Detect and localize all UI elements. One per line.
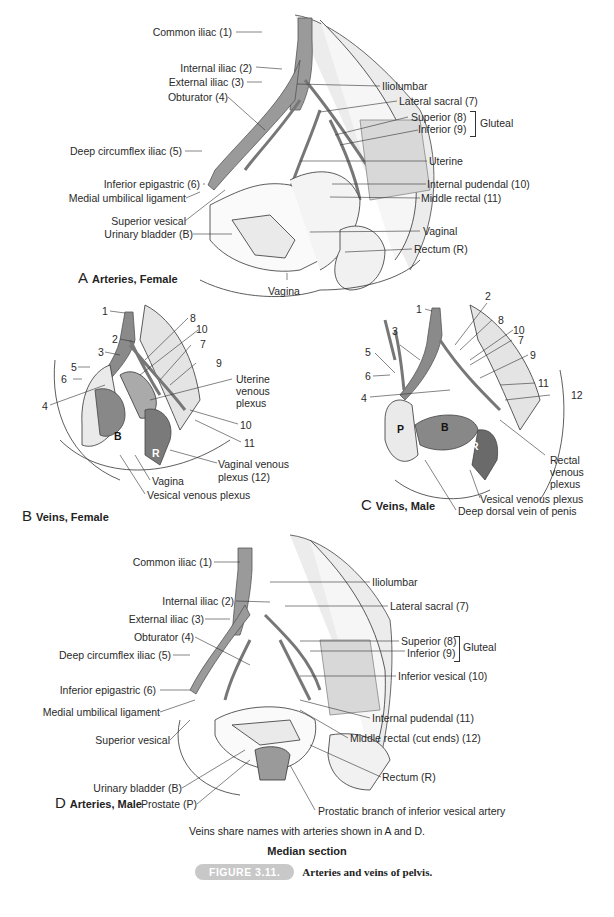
label-b-9: 9 xyxy=(216,357,222,369)
label-iliolumbar: Iliolumbar xyxy=(382,80,428,92)
label-c-11: 11 xyxy=(538,377,549,389)
label-c-10: 10 xyxy=(513,324,525,336)
label-inferior-vesical: Inferior vesical (10) xyxy=(398,670,487,682)
label-gluteal: Gluteal xyxy=(480,117,513,129)
label-uterine: Uterine xyxy=(429,155,463,167)
label-prostatic-branch: Prostatic branch of inferior vesical art… xyxy=(318,805,505,817)
label-c-6: 6 xyxy=(365,370,371,382)
label-internal-pudendal: Internal pudendal (10) xyxy=(427,178,530,190)
pelvis-illustrations xyxy=(0,0,614,917)
label-c-9: 9 xyxy=(530,349,536,361)
label-vaginal-venous-plexus-2: plexus (12) xyxy=(218,471,270,483)
label-rectal-venous-plexus-3: plexus xyxy=(550,478,580,490)
label-deep-circumflex-iliac: Deep circumflex iliac (5) xyxy=(70,145,182,157)
label-b-5: 5 xyxy=(71,361,77,373)
label-obturator: Obturator (4) xyxy=(134,631,194,643)
label-b-8: 8 xyxy=(190,312,196,324)
label-rectum: Rectum (R) xyxy=(414,243,468,255)
label-uterine-venous-plexus-2: venous xyxy=(236,385,270,397)
label-deep-dorsal-vein: Deep dorsal vein of penis xyxy=(458,505,577,517)
bladder-marker: B xyxy=(114,430,122,442)
label-inferior-epigastric: Inferior epigastric (6) xyxy=(60,684,156,696)
label-b-6: 6 xyxy=(61,373,67,385)
label-rectum: Rectum (R) xyxy=(382,771,436,783)
rectum-marker: R xyxy=(152,447,160,459)
label-vagina: Vagina xyxy=(152,475,184,487)
label-deep-circumflex-iliac: Deep circumflex iliac (5) xyxy=(59,649,171,661)
label-c-1: 1 xyxy=(416,303,422,315)
label-b-10-upper: 10 xyxy=(196,323,208,335)
label-inferior-epigastric: Inferior epigastric (6) xyxy=(104,178,200,190)
gluteal-bracket xyxy=(470,111,476,137)
panel-d-title: DArteries, Male xyxy=(55,794,142,811)
label-obturator: Obturator (4) xyxy=(168,91,228,103)
label-b-11: 11 xyxy=(244,437,255,449)
label-gluteal-inferior: Inferior (9) xyxy=(407,647,455,659)
caption-note: Veins share names with arteries shown in… xyxy=(0,825,614,837)
label-urinary-bladder: Urinary bladder (B) xyxy=(104,228,193,240)
caption-subtitle: Median section xyxy=(0,845,614,857)
label-vagina: Vagina xyxy=(268,285,300,297)
label-vesical-venous-plexus: Vesical venous plexus xyxy=(480,493,583,505)
figure-badge: FIGURE 3.11. xyxy=(195,864,294,880)
panel-c-illustration xyxy=(385,305,564,500)
label-middle-rectal: Middle rectal (cut ends) (12) xyxy=(350,732,481,744)
panel-a-illustration xyxy=(200,15,434,297)
panel-d-illustration xyxy=(178,535,392,795)
label-internal-pudendal: Internal pudendal (11) xyxy=(372,712,474,724)
label-b-2: 2 xyxy=(112,333,118,345)
label-medial-umbilical-ligament: Medial umbilical ligament xyxy=(69,192,186,204)
label-internal-iliac: Internal iliac (2) xyxy=(180,62,252,74)
panel-c-title: CVeins, Male xyxy=(361,496,435,513)
label-c-8: 8 xyxy=(498,314,504,326)
label-c-3: 3 xyxy=(392,325,398,337)
label-gluteal-inferior: Inferior (9) xyxy=(418,123,466,135)
label-c-5: 5 xyxy=(365,346,371,358)
label-b-4: 4 xyxy=(42,400,48,412)
prostate-marker: P xyxy=(397,423,404,435)
rectum-marker: R xyxy=(471,440,479,452)
label-medial-umbilical-ligament: Medial umbilical ligament xyxy=(43,706,160,718)
label-b-3: 3 xyxy=(98,346,104,358)
label-c-4: 4 xyxy=(361,392,367,404)
label-b-1: 1 xyxy=(102,305,108,317)
label-vaginal: Vaginal xyxy=(423,225,457,237)
figure-caption: FIGURE 3.11. Arteries and veins of pelvi… xyxy=(195,864,432,880)
label-gluteal: Gluteal xyxy=(463,641,496,653)
label-internal-iliac: Internal iliac (2) xyxy=(162,595,234,607)
label-gluteal-superior: Superior (8) xyxy=(411,111,466,123)
label-iliolumbar: Iliolumbar xyxy=(372,576,418,588)
gluteal-bracket xyxy=(454,636,460,662)
label-urinary-bladder: Urinary bladder (B) xyxy=(93,782,182,794)
label-prostate: Prostate (P) xyxy=(141,798,197,810)
label-uterine-venous-plexus-3: plexus xyxy=(236,397,266,409)
figure-title: Arteries and veins of pelvis. xyxy=(302,866,432,878)
label-rectal-venous-plexus-1: Rectal xyxy=(550,454,580,466)
label-b-7: 7 xyxy=(200,338,206,350)
label-gluteal-superior: Superior (8) xyxy=(401,635,456,647)
panel-b-title: BVeins, Female xyxy=(22,507,109,524)
label-c-2: 2 xyxy=(485,290,491,302)
bladder-marker: B xyxy=(441,421,449,433)
label-lateral-sacral: Lateral sacral (7) xyxy=(390,600,469,612)
label-rectal-venous-plexus-2: venous xyxy=(550,466,584,478)
label-b-10-lower: 10 xyxy=(240,419,252,431)
label-uterine-venous-plexus-1: Uterine xyxy=(236,373,270,385)
label-c-12: 12 xyxy=(571,389,583,401)
label-vesical-venous-plexus: Vesical venous plexus xyxy=(147,489,250,501)
label-external-iliac: External iliac (3) xyxy=(129,613,204,625)
label-lateral-sacral: Lateral sacral (7) xyxy=(399,95,478,107)
label-common-iliac: Common iliac (1) xyxy=(153,26,232,38)
label-superior-vesical: Superior vesical xyxy=(111,215,186,227)
panel-a-title: AArteries, Female xyxy=(78,269,178,286)
label-middle-rectal: Middle rectal (11) xyxy=(421,192,501,204)
label-common-iliac: Common iliac (1) xyxy=(133,556,212,568)
label-vaginal-venous-plexus-1: Vaginal venous xyxy=(218,458,289,470)
label-superior-vesical: Superior vesical xyxy=(95,734,170,746)
label-external-iliac: External iliac (3) xyxy=(169,76,244,88)
